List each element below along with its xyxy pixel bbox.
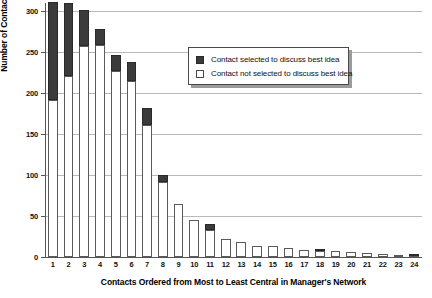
legend-item-selected: Contact selected to discuss best idea [196, 53, 339, 66]
bar [48, 2, 58, 257]
bar-segment-selected [158, 175, 168, 182]
bar-segment-selected [111, 55, 121, 71]
bar-segment-not-selected [64, 76, 74, 257]
bar-segment-selected [79, 10, 89, 46]
y-axis-title: Number of Contacts [0, 0, 9, 92]
bar-segment-not-selected [362, 253, 372, 257]
bar-segment-not-selected [236, 242, 246, 257]
bar [409, 255, 419, 257]
bar-segment-not-selected [79, 46, 89, 257]
bar [189, 220, 199, 257]
bar [378, 254, 388, 257]
x-axis-ticks: 123456789101112131415161718192021222324 [45, 260, 422, 272]
bar [64, 3, 74, 257]
bar-segment-not-selected [315, 251, 325, 257]
chart-legend: Contact selected to discuss best idea Co… [188, 47, 349, 85]
bar [394, 255, 404, 257]
bar-segment-not-selected [394, 255, 404, 257]
x-tick-label: 12 [218, 260, 234, 269]
x-tick-label: 22 [375, 260, 391, 269]
y-tick-label: 250 [12, 48, 38, 57]
bar-segment-not-selected [284, 248, 294, 257]
bar-segment-selected [64, 3, 74, 76]
bar-segment-not-selected [95, 45, 105, 257]
bar [268, 246, 278, 257]
bar-segment-selected [48, 2, 58, 100]
bar [362, 253, 372, 257]
x-tick-label: 13 [234, 260, 250, 269]
bar [158, 175, 168, 257]
x-tick-label: 21 [359, 260, 375, 269]
x-tick-label: 23 [391, 260, 407, 269]
bar-segment-not-selected [142, 125, 152, 257]
x-tick-label: 18 [312, 260, 328, 269]
bar-segment-not-selected [346, 252, 356, 257]
x-tick-label: 20 [343, 260, 359, 269]
legend-swatch-light-icon [196, 70, 204, 78]
x-axis-line [45, 257, 422, 258]
x-tick-label: 24 [406, 260, 422, 269]
x-tick-label: 1 [45, 260, 61, 269]
bar-segment-not-selected [299, 250, 309, 257]
bar [331, 251, 341, 257]
bar-segment-not-selected [378, 254, 388, 257]
y-tick-mark [41, 257, 45, 258]
y-tick-label: 0 [12, 253, 38, 262]
bar-segment-selected [315, 249, 325, 251]
bar [79, 10, 89, 257]
bar-segment-not-selected [48, 100, 58, 257]
y-tick-label: 50 [12, 212, 38, 221]
bar [236, 242, 246, 257]
x-axis-title: Contacts Ordered from Most to Least Cent… [45, 277, 422, 287]
bar-segment-selected [205, 224, 215, 230]
legend-item-not-selected: Contact not selected to discuss best ide… [196, 67, 352, 80]
x-tick-label: 2 [61, 260, 77, 269]
bar-series-group [45, 3, 422, 257]
bar-segment-not-selected [221, 239, 231, 257]
bar-segment-not-selected [111, 71, 121, 257]
bar [95, 29, 105, 257]
bar-segment-selected [409, 254, 419, 256]
bar-segment-selected [127, 62, 137, 81]
x-tick-label: 5 [108, 260, 124, 269]
x-tick-label: 11 [202, 260, 218, 269]
x-tick-label: 8 [155, 260, 171, 269]
bar [142, 108, 152, 257]
bar [205, 224, 215, 257]
legend-label: Contact selected to discuss best idea [211, 55, 339, 64]
y-tick-label: 300 [12, 7, 38, 16]
x-tick-label: 3 [76, 260, 92, 269]
x-tick-label: 9 [171, 260, 187, 269]
y-tick-label: 150 [12, 130, 38, 139]
legend-swatch-dark-icon [196, 56, 204, 64]
bar-chart: Number of Contacts 050100150200250300 12… [0, 0, 432, 298]
y-tick-label: 200 [12, 89, 38, 98]
bar [221, 239, 231, 257]
bar-segment-not-selected [268, 246, 278, 257]
bar-segment-not-selected [252, 246, 262, 257]
bar [252, 246, 262, 257]
x-tick-label: 16 [281, 260, 297, 269]
x-tick-label: 14 [249, 260, 265, 269]
bar [284, 248, 294, 257]
x-tick-label: 17 [296, 260, 312, 269]
x-tick-label: 10 [186, 260, 202, 269]
y-tick-label: 100 [12, 171, 38, 180]
bar-segment-not-selected [189, 220, 199, 257]
bar [299, 250, 309, 257]
x-tick-label: 7 [139, 260, 155, 269]
bar [315, 250, 325, 257]
x-tick-label: 4 [92, 260, 108, 269]
x-tick-label: 19 [328, 260, 344, 269]
bar [174, 204, 184, 257]
bar-segment-selected [142, 108, 152, 125]
bar-segment-not-selected [331, 251, 341, 257]
x-tick-label: 6 [124, 260, 140, 269]
legend-label: Contact not selected to discuss best ide… [211, 69, 352, 78]
bar [346, 252, 356, 257]
bar-segment-not-selected [158, 182, 168, 257]
bar-segment-not-selected [174, 204, 184, 257]
bar [111, 55, 121, 257]
bar-segment-selected [95, 29, 105, 45]
bar-segment-not-selected [127, 81, 137, 257]
